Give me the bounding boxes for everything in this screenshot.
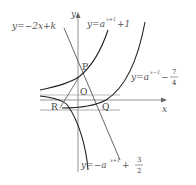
svg-text:x−1: x−1 bbox=[150, 69, 160, 75]
curve-exp1 bbox=[40, 30, 108, 90]
svg-text:7: 7 bbox=[172, 68, 176, 76]
point-p-label: P bbox=[82, 62, 88, 72]
y-axis-label: y bbox=[70, 9, 77, 19]
svg-text:3: 3 bbox=[137, 156, 141, 164]
label-exp2: y=a x−1 − 7 4 bbox=[130, 68, 178, 87]
x-axis-label: x bbox=[162, 104, 167, 114]
svg-text:−: − bbox=[161, 72, 169, 82]
svg-text:2: 2 bbox=[137, 167, 141, 175]
label-line: y=−2x+k bbox=[11, 21, 56, 31]
svg-text:y=a: y=a bbox=[130, 72, 149, 82]
line-y-minus-2x-plus-k bbox=[64, 28, 120, 160]
svg-text:x+1: x+1 bbox=[110, 157, 120, 163]
y-axis-arrow-icon bbox=[76, 12, 81, 18]
label-exp1: y=a x+1 +1 bbox=[86, 16, 130, 29]
svg-text:4: 4 bbox=[172, 79, 177, 87]
graph-diagram: y x O P Q R y=−2x+k y=a x+1 +1 y=a x−1 −… bbox=[0, 0, 196, 185]
label-exp3: y=−a x+1 + 3 2 bbox=[80, 156, 143, 175]
x-axis-arrow-icon bbox=[161, 98, 167, 103]
point-r-label: R bbox=[51, 102, 58, 112]
svg-text:+: + bbox=[122, 160, 130, 170]
svg-text:x+1: x+1 bbox=[106, 16, 116, 22]
svg-text:y=a: y=a bbox=[86, 19, 105, 29]
point-q-label: Q bbox=[102, 102, 109, 112]
origin-label: O bbox=[80, 87, 87, 97]
svg-text:+1: +1 bbox=[117, 19, 130, 29]
svg-text:y=−a: y=−a bbox=[80, 160, 107, 170]
